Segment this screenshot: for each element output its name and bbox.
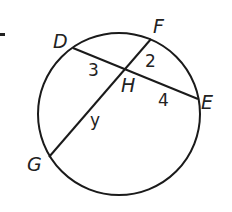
circle-diagram: D F H E G 3 2 4 y (0, 0, 232, 212)
point-label-f: F (153, 15, 165, 37)
chord-fg (49, 39, 151, 157)
problem-marker (0, 33, 5, 36)
point-label-g: G (27, 153, 42, 175)
segment-label-fh: 2 (145, 51, 156, 71)
circle (38, 33, 200, 195)
segment-label-he: 4 (158, 90, 169, 110)
segment-label-hg: y (90, 110, 100, 130)
point-label-e: E (201, 91, 213, 113)
segment-label-dh: 3 (88, 60, 99, 80)
point-label-d: D (53, 30, 68, 52)
point-label-h: H (121, 74, 135, 96)
